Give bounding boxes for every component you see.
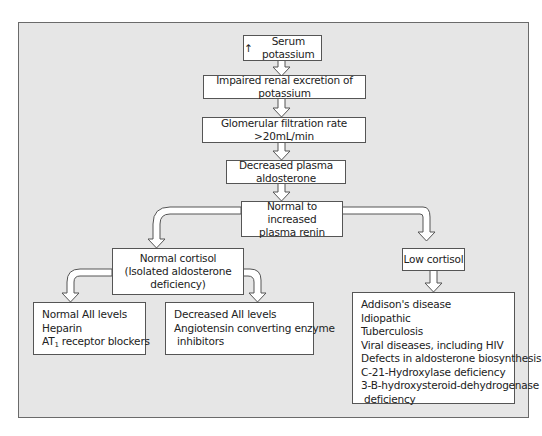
decreased-aii-node: Decreased AII levels Angiotensin convert… <box>165 302 314 355</box>
normal-cortisol-line3: deficiency) <box>150 278 205 291</box>
cause-item: 3-B-hydroxysteroid-dehydrogenase <box>361 379 506 393</box>
renin-label-line2: plasma renin <box>259 226 325 239</box>
decreased-aii-line3: inhibitors <box>174 335 305 349</box>
normal-aii-line3: AT1 receptor blockers <box>42 335 137 349</box>
cause-item: Addison's disease <box>361 298 506 312</box>
gfr-label: Glomerular filtration rate >20mL/min <box>203 117 365 143</box>
normal-aii-line1: Normal AII levels <box>42 308 137 322</box>
serum-potassium-node: ↑ Serum potassium <box>243 35 322 61</box>
cause-item: deficiency <box>361 393 506 407</box>
at-label: AT <box>42 335 54 347</box>
cause-item: Viral diseases, including HIV <box>361 339 506 353</box>
low-cortisol-node: Low cortisol <box>402 248 465 271</box>
decreased-aii-line2: Angiotensin converting enzyme <box>174 322 305 336</box>
impaired-excretion-label: Impaired renal excretion of potassium <box>204 74 365 100</box>
low-cortisol-causes-node: Addison's disease Idiopathic Tuberculosi… <box>352 292 515 404</box>
serum-potassium-label: Serum potassium <box>256 35 321 61</box>
renin-node: Normal to increased plasma renin <box>241 201 343 237</box>
low-cortisol-label: Low cortisol <box>404 253 464 266</box>
impaired-excretion-node: Impaired renal excretion of potassium <box>203 75 366 99</box>
cause-item: Tuberculosis <box>361 325 506 339</box>
normal-cortisol-line2: (Isolated aldosterone <box>125 265 232 278</box>
cause-item: Defects in aldosterone biosynthesis <box>361 352 506 366</box>
decreased-aii-line1: Decreased AII levels <box>174 308 305 322</box>
normal-aii-line2: Heparin <box>42 322 137 336</box>
receptor-blockers-label: receptor blockers <box>59 335 150 347</box>
up-arrow-icon: ↑ <box>244 42 253 55</box>
cause-item: C-21-Hydroxylase deficiency <box>361 366 506 380</box>
normal-cortisol-node: Normal cortisol (Isolated aldosterone de… <box>112 248 244 295</box>
renin-label-line1: Normal to increased <box>242 200 342 226</box>
decreased-aldosterone-label: Decreased plasma aldosterone <box>227 159 345 185</box>
decreased-aldosterone-node: Decreased plasma aldosterone <box>226 160 346 184</box>
gfr-node: Glomerular filtration rate >20mL/min <box>202 117 366 143</box>
normal-aii-node: Normal AII levels Heparin AT1 receptor b… <box>33 302 146 355</box>
cause-item: Idiopathic <box>361 312 506 326</box>
normal-cortisol-line1: Normal cortisol <box>140 252 217 265</box>
